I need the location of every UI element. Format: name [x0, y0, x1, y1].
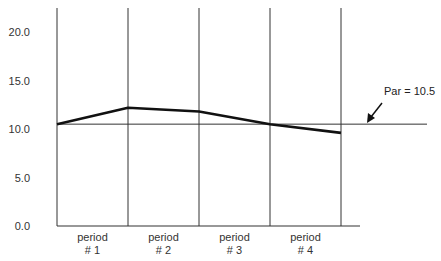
y-tick-label: 15.0: [9, 75, 30, 87]
line-chart: 0.05.010.015.020.0 period# 1period# 2per…: [0, 0, 441, 261]
vertical-gridlines: [57, 8, 341, 226]
x-category-label: period: [290, 231, 321, 243]
y-tick-label: 5.0: [15, 172, 30, 184]
x-category-label: period: [148, 231, 179, 243]
x-category-label: period: [219, 231, 250, 243]
x-category-label: # 1: [85, 244, 100, 256]
y-tick-label: 10.0: [9, 123, 30, 135]
par-label: Par = 10.5: [384, 85, 435, 97]
par-annotation: Par = 10.5: [367, 85, 435, 123]
x-category-label: period: [77, 231, 108, 243]
x-category-label: # 2: [156, 244, 171, 256]
y-tick-label: 0.0: [15, 220, 30, 232]
x-category-label: # 3: [227, 244, 242, 256]
x-category-label: # 4: [298, 244, 313, 256]
y-tick-label: 20.0: [9, 26, 30, 38]
y-axis-tick-labels: 0.05.010.015.020.0: [9, 26, 30, 232]
x-axis-category-labels: period# 1period# 2period# 3period# 4: [77, 231, 321, 256]
arrow-shaft: [371, 103, 382, 117]
